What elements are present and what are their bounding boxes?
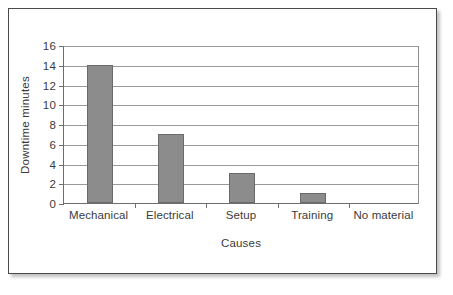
y-axis-tick-label: 2: [49, 178, 56, 190]
y-axis-title: Downtime minutes: [17, 46, 33, 204]
y-axis-tick-label: 16: [43, 40, 56, 52]
x-axis-category-label: Electrical: [146, 209, 194, 221]
gridline: [64, 125, 418, 126]
y-axis-tick-label: 0: [49, 198, 56, 210]
y-axis-tick-mark: [59, 46, 64, 47]
bar: [300, 193, 326, 203]
x-axis-category-label: No material: [353, 209, 413, 221]
gridline: [64, 86, 418, 87]
x-axis-tick-mark: [206, 203, 207, 208]
y-axis-tick-mark: [59, 165, 64, 166]
gridline: [64, 66, 418, 67]
y-axis-tick-mark: [59, 66, 64, 67]
x-axis-tick-mark: [135, 203, 136, 208]
y-axis-tick-mark: [59, 184, 64, 185]
y-axis-tick-label: 6: [49, 139, 56, 151]
y-axis-tick-label: 4: [49, 159, 56, 171]
x-axis-title: Causes: [63, 237, 419, 249]
bar: [158, 134, 184, 203]
y-axis-tick-mark: [59, 105, 64, 106]
x-axis-category-label: Training: [291, 209, 333, 221]
chart-figure: Downtime minutes 0246810121416 Mechanica…: [8, 8, 437, 274]
gridline: [64, 145, 418, 146]
y-axis-tick-mark: [59, 125, 64, 126]
y-axis-tick-label: 10: [43, 99, 56, 111]
gridline: [64, 105, 418, 106]
y-axis-tick-mark: [59, 86, 64, 87]
gridline: [64, 46, 418, 47]
plot-area: 0246810121416: [63, 46, 419, 204]
x-axis-tick-mark: [278, 203, 279, 208]
x-axis-tick-mark: [349, 203, 350, 208]
y-axis-tick-label: 8: [49, 119, 56, 131]
bar: [87, 65, 113, 203]
y-axis-tick-mark: [59, 204, 64, 205]
y-axis-tick-label: 14: [43, 60, 56, 72]
y-axis-tick-mark: [59, 145, 64, 146]
y-axis-title-text: Downtime minutes: [19, 76, 31, 174]
x-axis-category-label: Setup: [226, 209, 257, 221]
y-axis-tick-label: 12: [43, 80, 56, 92]
bar: [229, 173, 255, 203]
x-axis-category-label: Mechanical: [69, 209, 128, 221]
gridline: [64, 165, 418, 166]
